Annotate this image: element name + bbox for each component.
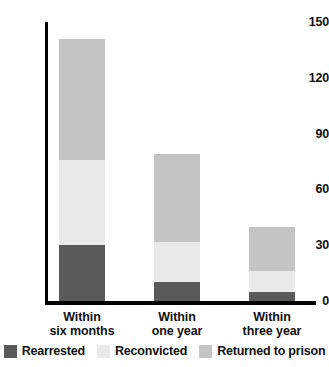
legend-item-reconvicted: Reconvicted [97,344,187,358]
bar-within-six-months [59,39,105,301]
bar-segment-rearrested [249,292,295,301]
legend-item-returned-to-prison: Returned to prison [199,344,325,358]
legend-label: Rearrested [22,344,85,358]
y-tick-label-30: 30 [289,238,329,252]
bar-segment-reconvicted [249,271,295,291]
x-category-label-within-three-year: Within three year [224,310,320,338]
x-axis-line [45,301,316,305]
category-label-line1: Within [158,310,195,324]
y-axis-line [45,22,48,303]
category-label-line1: Within [63,310,100,324]
category-label-line2: three year [224,324,320,338]
bar-segment-rearrested [59,245,105,301]
bar-within-three-year [249,227,295,301]
y-tick-label-90: 90 [289,127,329,141]
y-tick-label-60: 60 [289,182,329,196]
bar-segment-reconvicted [154,242,200,283]
plot-area: 150 120 90 60 30 0 Within six months Wit… [0,0,329,310]
bar-segment-reconvicted [59,160,105,246]
stacked-bar-chart: 150 120 90 60 30 0 Within six months Wit… [0,0,329,367]
y-tick-label-120: 120 [289,71,329,85]
bar-segment-returned-to-prison [249,227,295,272]
legend-swatch-icon [199,345,212,358]
x-category-label-within-six-months: Within six months [34,310,130,338]
legend-label: Reconvicted [115,344,187,358]
bar-segment-rearrested [154,282,200,301]
legend-label: Returned to prison [217,344,325,358]
legend-swatch-icon [4,345,17,358]
category-label-line1: Within [253,310,290,324]
bar-segment-returned-to-prison [59,39,105,160]
y-tick-label-150: 150 [289,15,329,29]
chart-legend: Rearrested Reconvicted Returned to priso… [0,344,329,358]
bar-segment-returned-to-prison [154,154,200,241]
bar-within-one-year [154,154,200,301]
category-label-line2: six months [34,324,130,338]
legend-swatch-icon [97,345,110,358]
category-label-line2: one year [129,324,225,338]
legend-item-rearrested: Rearrested [4,344,85,358]
x-category-label-within-one-year: Within one year [129,310,225,338]
y-tick-label-0: 0 [289,294,329,308]
